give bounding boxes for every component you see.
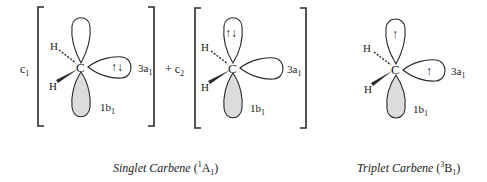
1b1-label: 1b1 — [413, 103, 428, 118]
1b1-orbital — [224, 73, 242, 118]
term-subscript: 1 — [452, 168, 456, 177]
right-bracket — [148, 7, 154, 126]
wedge-bond — [56, 69, 78, 83]
hydrogen-bottom: H — [49, 80, 57, 92]
hydrogen-top: H — [201, 41, 209, 53]
top-lobe-orbital — [72, 18, 90, 63]
left-bracket — [38, 7, 44, 126]
hydrogen-bottom: H — [201, 81, 209, 93]
singlet-caption-name: Singlet Carbene — [113, 161, 191, 175]
1b1-orbital — [72, 72, 90, 117]
carbon-atom: C — [76, 60, 85, 75]
wedge-bond — [371, 71, 392, 86]
3a1-label: 3a1 — [287, 63, 301, 78]
singlet-structure-2: C H H ↑↓ 3a1 1b1 — [195, 8, 306, 128]
electron-up-icon: ↑ — [392, 27, 398, 41]
right-bracket — [300, 8, 306, 128]
3a1-label: 3a1 — [451, 65, 465, 80]
electron-pair-icon: ↑↓ — [225, 26, 237, 40]
3a1-orbital — [240, 58, 283, 79]
wedge-bond — [208, 70, 230, 84]
1b1-label: 1b1 — [250, 102, 265, 117]
hydrogen-top: H — [363, 42, 371, 54]
dashed-bond — [59, 50, 76, 63]
carbon-atom: C — [391, 62, 400, 77]
3a1-orbital — [88, 57, 131, 78]
electron-pair-icon: ↑↓ — [111, 60, 123, 74]
triplet-caption-name: Triplet Carbene — [357, 161, 433, 175]
top-lobe-orbital — [386, 19, 405, 64]
singlet-caption: Singlet Carbene (1A1) — [113, 160, 218, 177]
left-bracket — [195, 8, 201, 128]
top-lobe-orbital — [224, 18, 242, 63]
carbene-orbital-diagram: C H H ↑↓ 3a1 1b1 c1 +c2 C H H ↑↓ 3a1 1b1… — [0, 0, 487, 182]
singlet-structure-1: C H H ↑↓ 3a1 1b1 c1 — [20, 7, 154, 126]
3a1-orbital — [403, 60, 445, 81]
plus-c2-term: +c2 — [165, 62, 184, 78]
dashed-bond — [374, 52, 391, 65]
3a1-label: 3a1 — [138, 62, 152, 77]
1b1-label: 1b1 — [100, 101, 115, 116]
carbon-atom: C — [228, 61, 237, 76]
hydrogen-top: H — [50, 40, 58, 52]
hydrogen-bottom: H — [364, 83, 372, 95]
dashed-bond — [211, 51, 228, 64]
electron-up-icon: ↑ — [426, 64, 432, 78]
triplet-caption: Triplet Carbene (3B1) — [357, 160, 460, 177]
term-subscript: 1 — [210, 168, 214, 177]
triplet-structure: C H H ↑ ↑ 3a1 1b1 — [363, 19, 465, 118]
1b1-orbital — [387, 75, 405, 118]
coefficient-c1: c1 — [20, 62, 29, 78]
